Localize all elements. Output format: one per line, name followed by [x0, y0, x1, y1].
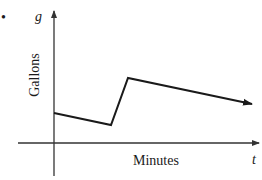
chart: • g Gallons Minutes t: [0, 0, 262, 180]
bullet-marker: •: [1, 10, 6, 26]
gallons-line: [54, 78, 252, 125]
y-axis-title: Gallons: [27, 53, 43, 97]
x-axis-symbol: t: [252, 152, 256, 168]
y-axis-symbol: g: [35, 9, 42, 25]
x-axis-title: Minutes: [133, 153, 179, 169]
